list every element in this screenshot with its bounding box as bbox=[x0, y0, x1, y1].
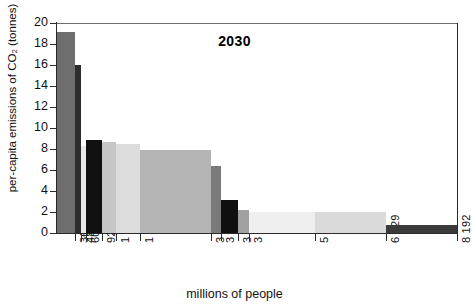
x-tick-mark bbox=[75, 234, 76, 241]
y-tick-mark bbox=[50, 128, 57, 129]
y-axis-title-text: per-capita emissions of CO₂ (tonnes) bbox=[6, 4, 18, 193]
y-tick-label: 10 bbox=[0, 128, 48, 129]
x-tick-mark bbox=[102, 234, 103, 241]
y-tick-mark bbox=[50, 44, 57, 45]
x-tick-mark bbox=[221, 234, 222, 241]
x-tick-mark bbox=[116, 234, 117, 241]
y-tick-mark bbox=[50, 212, 57, 213]
bar-segment bbox=[116, 144, 140, 233]
bar-segment bbox=[238, 210, 250, 233]
y-tick-mark bbox=[50, 149, 57, 150]
y-tick-mark bbox=[50, 65, 57, 66]
plot-right-border bbox=[457, 23, 458, 234]
bar-segment bbox=[211, 166, 221, 233]
x-tick-label: 8 192 bbox=[461, 214, 472, 243]
x-tick-mark bbox=[386, 234, 387, 241]
y-tick-label: 2 bbox=[0, 212, 48, 213]
y-tick-label: 6 bbox=[0, 170, 48, 171]
bar-segment bbox=[386, 225, 457, 233]
y-tick-mark bbox=[50, 233, 57, 234]
y-tick-mark bbox=[50, 86, 57, 87]
x-tick-mark bbox=[86, 234, 87, 241]
x-tick-mark bbox=[238, 234, 239, 241]
y-tick-label: 14 bbox=[0, 86, 48, 87]
x-tick-mark bbox=[140, 234, 141, 241]
bar-segment bbox=[315, 212, 386, 233]
bar-segment bbox=[140, 150, 211, 233]
x-tick-mark bbox=[315, 234, 316, 241]
bar-segment bbox=[57, 32, 75, 233]
x-tick-mark bbox=[249, 234, 250, 241]
bar-segment bbox=[249, 212, 314, 233]
y-tick-mark bbox=[50, 23, 57, 24]
y-tick-label: 20 bbox=[0, 23, 48, 24]
y-tick-label: 4 bbox=[0, 191, 48, 192]
y-tick-label: 12 bbox=[0, 107, 48, 108]
y-tick-label: 16 bbox=[0, 65, 48, 66]
x-tick-mark bbox=[211, 234, 212, 241]
x-tick-mark bbox=[81, 234, 82, 241]
y-axis-title: per-capita emissions of CO₂ (tonnes) bbox=[6, 0, 18, 198]
y-tick-label: 8 bbox=[0, 149, 48, 150]
y-tick-mark bbox=[50, 191, 57, 192]
y-tick-label: 18 bbox=[0, 44, 48, 45]
y-tick-label: 0 bbox=[0, 233, 48, 234]
x-axis-title: millions of people bbox=[0, 287, 469, 301]
bar-segment bbox=[86, 140, 102, 233]
bar-segment bbox=[102, 142, 116, 233]
y-tick-mark bbox=[50, 170, 57, 171]
x-tick-mark bbox=[457, 234, 458, 241]
y-tick-mark bbox=[50, 107, 57, 108]
bars-layer bbox=[57, 23, 457, 233]
bar-segment bbox=[221, 200, 238, 233]
